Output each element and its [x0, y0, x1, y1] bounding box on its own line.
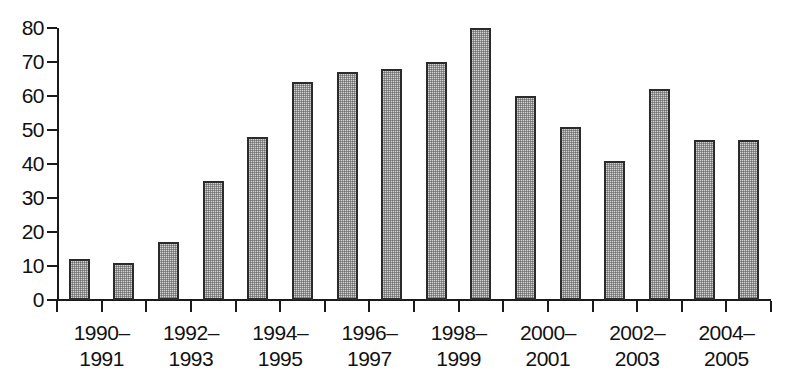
- bar: [292, 82, 313, 300]
- y-axis-tick-label: 60: [0, 85, 44, 106]
- bar: [113, 263, 134, 300]
- y-axis-tick: [47, 129, 57, 131]
- x-axis-tick: [56, 301, 58, 312]
- x-axis-tick: [725, 301, 727, 312]
- x-axis-tick: [502, 301, 504, 312]
- bar: [69, 259, 90, 300]
- y-axis-tick-label-text: 60: [4, 85, 44, 106]
- x-axis-tick: [101, 301, 103, 312]
- x-axis-tick: [279, 301, 281, 312]
- y-axis-tick-label: 70: [0, 51, 44, 72]
- bar: [203, 181, 224, 300]
- y-axis-tick-label-text: 40: [4, 153, 44, 174]
- bar: [247, 137, 268, 300]
- y-axis-tick-label-text: 80: [4, 17, 44, 38]
- bar-chart: 01020304050607080 1990– 19911992– 199319…: [0, 0, 788, 386]
- bar: [337, 72, 358, 300]
- x-axis-tick: [458, 301, 460, 312]
- y-axis-tick-label: 80: [0, 17, 44, 38]
- bar: [604, 161, 625, 300]
- y-axis-tick: [47, 95, 57, 97]
- y-axis-tick: [47, 197, 57, 199]
- bar: [158, 242, 179, 300]
- bar: [649, 89, 670, 300]
- y-axis-tick: [47, 27, 57, 29]
- y-axis-tick-label: 50: [0, 119, 44, 140]
- y-axis-tick-label-text: 70: [4, 51, 44, 72]
- y-axis-tick-label: 20: [0, 221, 44, 242]
- y-axis-tick: [47, 163, 57, 165]
- x-axis-tick: [324, 301, 326, 312]
- x-axis-tick: [368, 301, 370, 312]
- y-axis-tick-label-text: 20: [4, 221, 44, 242]
- y-axis-tick-label-text: 50: [4, 119, 44, 140]
- y-axis-tick: [47, 231, 57, 233]
- x-axis-tick: [770, 301, 772, 312]
- y-axis-tick-label-text: 30: [4, 187, 44, 208]
- y-axis-tick-label-text: 0: [4, 289, 44, 310]
- x-axis-tick: [636, 301, 638, 312]
- x-axis-tick: [547, 301, 549, 312]
- x-axis-tick: [190, 301, 192, 312]
- bar: [738, 140, 759, 300]
- plot-area: [57, 28, 771, 300]
- bar: [560, 127, 581, 300]
- x-axis-tick: [235, 301, 237, 312]
- x-axis-group-label: 2004– 2005: [666, 320, 786, 372]
- bar: [515, 96, 536, 300]
- x-axis-tick: [145, 301, 147, 312]
- bar: [694, 140, 715, 300]
- y-axis-tick-label: 30: [0, 187, 44, 208]
- bar: [470, 28, 491, 300]
- bar: [426, 62, 447, 300]
- y-axis-tick: [47, 265, 57, 267]
- x-axis-tick: [592, 301, 594, 312]
- x-axis-tick: [681, 301, 683, 312]
- bar: [381, 69, 402, 300]
- y-axis-tick-label: 0: [0, 289, 44, 310]
- y-axis-tick-label: 10: [0, 255, 44, 276]
- y-axis-tick-label-text: 10: [4, 255, 44, 276]
- y-axis-tick-label: 40: [0, 153, 44, 174]
- y-axis-tick: [47, 61, 57, 63]
- x-axis-tick: [413, 301, 415, 312]
